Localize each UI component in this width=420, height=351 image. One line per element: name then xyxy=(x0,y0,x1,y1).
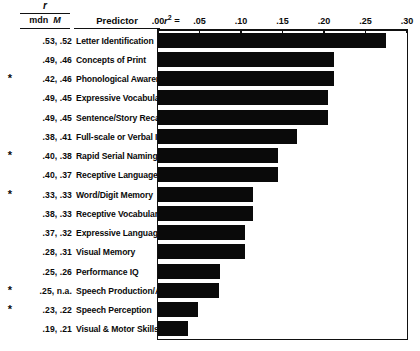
predictor-label: Visual Memory xyxy=(76,247,156,257)
correlation-values: .40, .37 xyxy=(14,170,72,180)
correlation-values: .38, .41 xyxy=(14,132,72,142)
bar xyxy=(158,302,198,317)
table-row: .37, .32Expressive Language xyxy=(0,224,420,242)
correlation-values: .42, .46 xyxy=(14,74,72,84)
correlation-values: .38, .33 xyxy=(14,209,72,219)
table-row: .25, .26Performance IQ xyxy=(0,263,420,281)
correlation-values: .49, .45 xyxy=(14,93,72,103)
bar xyxy=(158,90,328,105)
table-row: *.42, .46Phonological Awareness xyxy=(0,70,420,88)
table-row: .49, .45Expressive Vocabulary xyxy=(0,89,420,107)
bar xyxy=(158,187,253,202)
table-row: .28, .31Visual Memory xyxy=(0,243,420,261)
correlation-values: .19, .21 xyxy=(14,324,72,334)
correlation-values: .28, .31 xyxy=(14,247,72,257)
chart-root: r mdn M Predictor r2 = .00.05.10.15.20.2… xyxy=(0,0,420,351)
correlation-values: .33, .33 xyxy=(14,190,72,200)
table-row: .38, .33Receptive Vocabulary xyxy=(0,205,420,223)
table-row: .38, .41Full-scale or Verbal IQ xyxy=(0,128,420,146)
predictor-label: Receptive Language xyxy=(76,170,156,180)
predictor-label: Receptive Vocabulary xyxy=(76,209,156,219)
bar xyxy=(158,71,334,86)
bar xyxy=(158,264,220,279)
correlation-values: .25, n.a. xyxy=(14,286,72,296)
table-row: *.23, .22Speech Perception xyxy=(0,301,420,319)
predictor-label: Word/Digit Memory xyxy=(76,190,156,200)
table-row: *.25, n.a.Speech Production/Artic. xyxy=(0,282,420,300)
predictor-label: Concepts of Print xyxy=(76,55,156,65)
bar xyxy=(158,283,219,298)
bar xyxy=(158,225,245,240)
correlation-values: .37, .32 xyxy=(14,228,72,238)
table-row: .19, .21Visual & Motor Skills xyxy=(0,320,420,338)
bar xyxy=(158,52,334,67)
predictor-label: Speech Perception xyxy=(76,305,156,315)
bar xyxy=(158,206,253,221)
predictor-label: Visual & Motor Skills xyxy=(76,324,156,334)
bar xyxy=(158,167,278,182)
table-row: *.40, .38Rapid Serial Naming xyxy=(0,147,420,165)
table-row: .53, .52Letter Identification xyxy=(0,32,420,50)
predictor-label: Letter Identification xyxy=(76,36,156,46)
chart-rows: .53, .52Letter Identification.49, .46Con… xyxy=(0,0,420,351)
predictor-label: Phonological Awareness xyxy=(76,74,156,84)
correlation-values: .23, .22 xyxy=(14,305,72,315)
predictor-label: Speech Production/Artic. xyxy=(76,286,156,296)
correlation-values: .49, .46 xyxy=(14,55,72,65)
correlation-values: .49, .45 xyxy=(14,113,72,123)
table-row: .49, .45Sentence/Story Recall xyxy=(0,109,420,127)
bar xyxy=(158,321,188,336)
predictor-label: Full-scale or Verbal IQ xyxy=(76,132,156,142)
bar xyxy=(158,148,278,163)
bar xyxy=(158,244,245,259)
correlation-values: .40, .38 xyxy=(14,151,72,161)
predictor-label: Performance IQ xyxy=(76,267,156,277)
bar xyxy=(158,129,297,144)
predictor-label: Rapid Serial Naming xyxy=(76,151,156,161)
table-row: .40, .37Receptive Language xyxy=(0,166,420,184)
table-row: .49, .46Concepts of Print xyxy=(0,51,420,69)
correlation-values: .53, .52 xyxy=(14,36,72,46)
predictor-label: Sentence/Story Recall xyxy=(76,113,156,123)
bar xyxy=(158,33,386,48)
predictor-label: Expressive Vocabulary xyxy=(76,93,156,103)
correlation-values: .25, .26 xyxy=(14,267,72,277)
table-row: *.33, .33Word/Digit Memory xyxy=(0,186,420,204)
bar xyxy=(158,110,328,125)
predictor-label: Expressive Language xyxy=(76,228,156,238)
